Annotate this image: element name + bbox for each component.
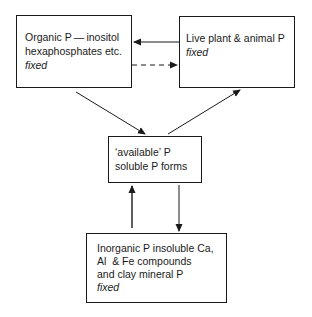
- node-live-status: fixed: [186, 45, 294, 59]
- node-inorganic-line-3: and clay mineral P: [97, 268, 226, 281]
- arrow-organic-to-available: [76, 92, 145, 134]
- node-organic-status: fixed: [25, 58, 131, 72]
- node-live-p: Live plant & animal P fixed: [179, 16, 295, 88]
- node-live-line-1: Live plant & animal P: [186, 31, 294, 45]
- node-inorganic-status: fixed: [97, 281, 226, 294]
- node-organic-p: Organic P — inositol hexaphosphates etc.…: [16, 15, 132, 88]
- node-inorganic-line-2: Al & Fe compounds: [97, 255, 226, 268]
- node-organic-line-1: Organic P — inositol: [25, 30, 131, 44]
- node-inorganic-p: Inorganic P insoluble Ca, Al & Fe compou…: [86, 233, 227, 303]
- arrow-available-to-live: [168, 90, 240, 134]
- node-available-line-2: soluble P forms: [115, 159, 201, 173]
- node-organic-line-2: hexaphosphates etc.: [25, 44, 131, 58]
- node-inorganic-line-1: Inorganic P insoluble Ca,: [97, 242, 226, 255]
- node-available-p: ‘available’ P soluble P forms: [108, 136, 202, 183]
- node-available-line-1: ‘available’ P: [115, 145, 201, 159]
